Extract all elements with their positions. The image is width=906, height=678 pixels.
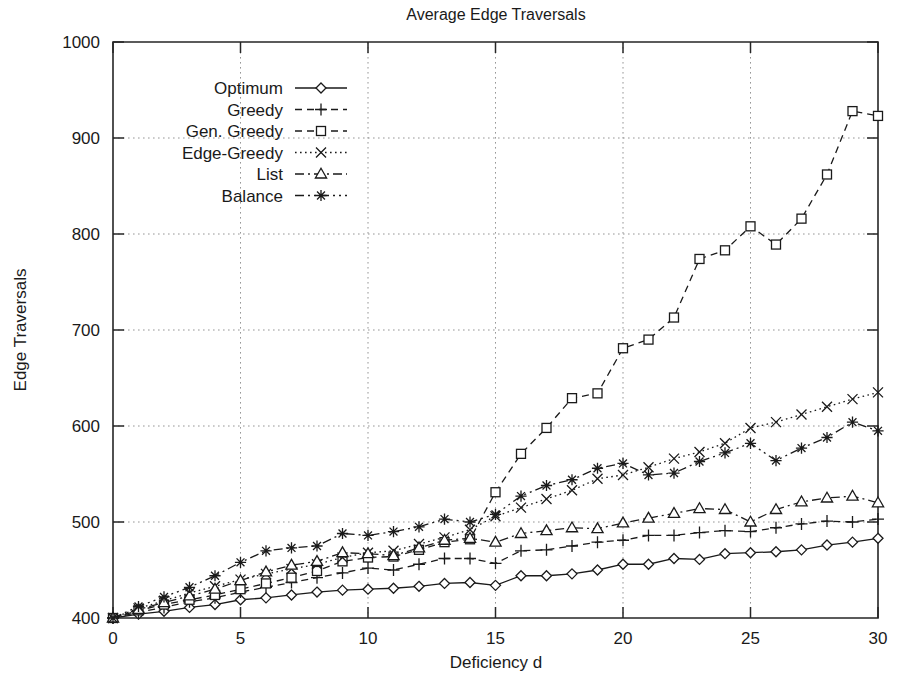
data-point-plus: [490, 557, 502, 569]
data-point-plus: [796, 518, 808, 530]
data-point-square: [644, 335, 653, 344]
data-point-square: [721, 246, 730, 255]
data-point-plus: [362, 562, 374, 574]
data-point-cross: [720, 438, 730, 448]
data-point-asterisk: [235, 557, 246, 568]
y-tick-label: 800: [72, 225, 100, 244]
data-point-asterisk: [107, 612, 118, 623]
y-tick-label: 1000: [62, 33, 100, 52]
data-point-square: [236, 585, 245, 594]
data-point-square: [746, 222, 755, 231]
y-tick-label: 500: [72, 513, 100, 532]
x-tick-label: 15: [486, 629, 505, 648]
line-chart: Average Edge Traversals 4005006007008009…: [0, 0, 906, 678]
data-point-asterisk: [490, 509, 501, 520]
x-tick-label: 25: [741, 629, 760, 648]
x-tick-label: 10: [359, 629, 378, 648]
data-point-diamond: [593, 565, 603, 575]
data-point-asterisk: [515, 490, 526, 501]
x-tick-label: 0: [108, 629, 117, 648]
data-point-asterisk: [770, 455, 781, 466]
data-point-asterisk: [286, 542, 297, 553]
data-point-square: [619, 344, 628, 353]
data-point-asterisk: [260, 545, 271, 556]
data-point-square: [491, 488, 500, 497]
data-point-square: [262, 579, 271, 588]
data-point-asterisk: [158, 591, 169, 602]
data-point-plus: [464, 552, 476, 564]
data-point-cross: [797, 409, 807, 419]
data-point-asterisk: [821, 432, 832, 443]
data-point-diamond: [720, 549, 730, 559]
data-point-cross: [669, 454, 679, 464]
data-point-asterisk: [184, 582, 195, 593]
data-point-cross: [593, 474, 603, 484]
data-point-square: [874, 111, 883, 120]
data-point-diamond: [287, 590, 297, 600]
data-point-diamond: [746, 548, 756, 558]
x-tick-label: 5: [236, 629, 245, 648]
data-point-cross: [567, 485, 577, 495]
data-point-triangle: [490, 536, 501, 546]
data-point-diamond: [363, 584, 373, 594]
data-point-plus: [668, 529, 680, 541]
data-point-square: [542, 423, 551, 432]
data-point-cross: [542, 494, 552, 504]
data-series: [107, 107, 884, 624]
data-point-asterisk: [872, 425, 883, 436]
data-point-square: [695, 254, 704, 263]
y-tick-label: 700: [72, 321, 100, 340]
chart-legend: OptimumGreedyGen. GreedyEdge-GreedyListB…: [182, 79, 347, 206]
data-point-square: [670, 313, 679, 322]
data-point-triangle: [745, 516, 756, 526]
data-point-diamond: [261, 593, 271, 603]
data-point-cross: [771, 417, 781, 427]
data-point-plus: [592, 536, 604, 548]
data-point-asterisk: [617, 458, 628, 469]
legend-label-edge-greedy: Edge-Greedy: [182, 144, 284, 163]
data-point-diamond: [822, 540, 832, 550]
data-point-diamond: [516, 571, 526, 581]
data-point-diamond: [618, 559, 628, 569]
data-point-square: [823, 170, 832, 179]
data-point-diamond: [312, 587, 322, 597]
data-point-asterisk: [668, 467, 679, 478]
data-point-cross: [516, 503, 526, 513]
legend-label-optimum: Optimum: [214, 79, 283, 98]
data-point-asterisk: [413, 521, 424, 532]
data-point-asterisk: [694, 456, 705, 467]
data-point-plus: [694, 527, 706, 539]
data-point-asterisk: [311, 540, 322, 551]
data-point-asterisk: [847, 417, 858, 428]
data-point-plus: [617, 534, 629, 546]
data-point-square: [568, 394, 577, 403]
data-point-asterisk: [745, 438, 756, 449]
data-point-plus: [439, 552, 451, 564]
data-point-triangle: [337, 547, 348, 557]
data-point-asterisk: [541, 480, 552, 491]
data-point-triangle: [315, 168, 326, 178]
data-point-asterisk: [719, 447, 730, 458]
data-point-diamond: [389, 583, 399, 593]
data-point-plus: [719, 525, 731, 537]
data-point-diamond: [542, 571, 552, 581]
data-point-plus: [643, 529, 655, 541]
data-point-triangle: [566, 522, 577, 532]
data-point-asterisk: [592, 463, 603, 474]
data-point-diamond: [797, 545, 807, 555]
y-axis-title: Edge Traversals: [11, 269, 30, 392]
legend-label-balance: Balance: [222, 187, 283, 206]
data-point-plus: [315, 104, 327, 116]
data-point-triangle: [847, 490, 858, 500]
data-point-cross: [848, 394, 858, 404]
data-point-square: [593, 389, 602, 398]
data-point-diamond: [440, 578, 450, 588]
data-point-diamond: [338, 585, 348, 595]
data-point-square: [772, 240, 781, 249]
chart-container: Average Edge Traversals 4005006007008009…: [0, 0, 906, 678]
data-point-plus: [566, 540, 578, 552]
data-point-diamond: [316, 83, 326, 93]
data-point-asterisk: [643, 469, 654, 480]
data-point-plus: [745, 526, 757, 538]
data-point-diamond: [414, 581, 424, 591]
